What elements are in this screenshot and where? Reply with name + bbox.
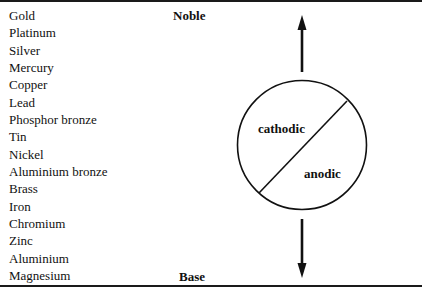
bottom-rule bbox=[0, 285, 422, 287]
cell-circle bbox=[238, 81, 367, 210]
corrosion-diagram bbox=[0, 0, 422, 290]
up-arrow-icon bbox=[298, 15, 307, 72]
anodic-label: anodic bbox=[304, 166, 341, 182]
cathodic-label: cathodic bbox=[258, 121, 305, 137]
down-arrow-icon bbox=[298, 219, 307, 278]
